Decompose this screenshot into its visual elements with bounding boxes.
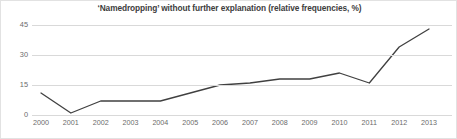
y-tick-label: 30 <box>6 51 28 58</box>
gridline <box>32 55 452 56</box>
x-axis: 2000200120022003200420052006200720082009… <box>32 119 452 133</box>
gridline <box>32 85 452 86</box>
y-axis: 0153045 <box>1 25 28 115</box>
y-tick-label: 0 <box>6 111 28 118</box>
line-chart-figure: ‘Namedropping’ without further explanati… <box>0 0 457 139</box>
y-tick-label: 45 <box>6 21 28 28</box>
plot-area <box>32 25 452 115</box>
series-line <box>32 25 452 115</box>
chart-title: ‘Namedropping’ without further explanati… <box>1 3 457 13</box>
gridline <box>32 25 452 26</box>
x-tick-label: 2013 <box>412 119 446 126</box>
gridline <box>32 115 452 116</box>
y-tick-label: 15 <box>6 81 28 88</box>
data-series-polyline <box>41 29 429 113</box>
